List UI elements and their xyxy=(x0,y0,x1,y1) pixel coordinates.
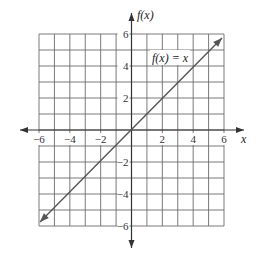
y-axis-up-arrow-icon xyxy=(129,13,135,21)
x-tick-label: −6 xyxy=(33,133,45,145)
x-tick-label: 2 xyxy=(160,133,166,145)
y-tick-label: −6 xyxy=(117,220,129,232)
x-tick-label: 6 xyxy=(221,133,227,145)
y-tick-label: 2 xyxy=(123,92,129,104)
x-tick-label: 4 xyxy=(190,133,196,145)
y-tick-label: −4 xyxy=(117,188,129,200)
y-axis-down-arrow-icon xyxy=(129,240,135,248)
function-graph: −6−4−2246−6−4−2246 f(x) x f(x) = x xyxy=(0,0,263,260)
axes xyxy=(20,13,244,248)
y-tick-label: −2 xyxy=(117,156,129,168)
x-tick-label: −4 xyxy=(64,133,76,145)
x-tick-label: −2 xyxy=(95,133,107,145)
y-tick-label: 6 xyxy=(123,28,129,40)
function-label: f(x) = x xyxy=(152,51,189,65)
x-axis-left-arrow-icon xyxy=(20,127,28,133)
y-axis-label: f(x) xyxy=(137,8,154,22)
y-tick-label: 4 xyxy=(123,60,129,72)
x-axis-label: x xyxy=(240,132,247,146)
